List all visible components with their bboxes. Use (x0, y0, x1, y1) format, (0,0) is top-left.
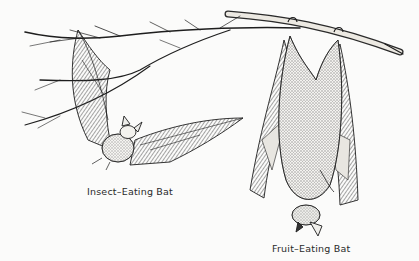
caption-insect-eating-bat: Insect–Eating Bat (87, 186, 173, 197)
insect-eating-bat (72, 30, 243, 170)
caption-fruit-eating-bat: Fruit–Eating Bat (272, 243, 350, 254)
bats-drawing (0, 0, 419, 261)
illustration: Insect–Eating Bat Fruit–Eating Bat (0, 0, 419, 261)
fruit-eating-bat (250, 18, 358, 237)
